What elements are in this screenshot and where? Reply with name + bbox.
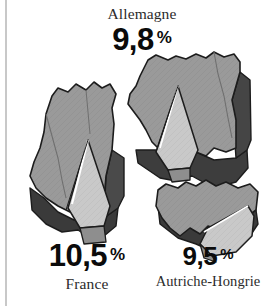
- country-name-france: France: [22, 276, 152, 292]
- value-row-germany: 9,8%: [77, 24, 207, 55]
- label-germany: Allemagne 9,8%: [77, 6, 207, 55]
- infographic-figure: Allemagne 9,8% 10,5% France 9,5% Autrich…: [0, 0, 274, 306]
- value-germany: 9,8: [112, 22, 154, 57]
- value-austria-hungary: 9,5: [183, 241, 218, 271]
- value-row-france: 10,5%: [22, 240, 152, 271]
- percent-symbol-germany: %: [157, 28, 172, 47]
- country-name-germany: Allemagne: [77, 6, 207, 22]
- country-name-austria-hungary: Autriche-Hongrie: [142, 274, 274, 289]
- map-shape-germany: [128, 52, 251, 188]
- value-france: 10,5: [49, 238, 107, 273]
- value-row-austria-hungary: 9,5%: [142, 243, 274, 269]
- percent-symbol-france: %: [110, 245, 125, 264]
- percent-symbol-austria-hungary: %: [220, 245, 233, 262]
- label-austria-hungary: 9,5% Autriche-Hongrie: [142, 243, 274, 289]
- label-france: 10,5% France: [22, 240, 152, 292]
- map-shape-france: [30, 82, 124, 244]
